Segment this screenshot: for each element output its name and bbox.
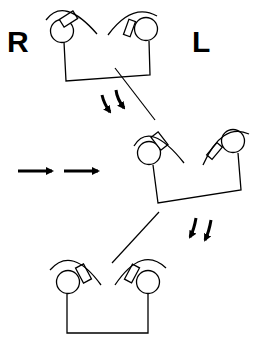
down-arrows-icon xyxy=(102,90,124,112)
left-eye-icon xyxy=(108,12,158,41)
rotation-diagram xyxy=(0,0,255,337)
down-arrows-icon xyxy=(190,218,211,240)
connector-line xyxy=(112,212,159,263)
bracket-base xyxy=(67,294,148,333)
right-eye-icon xyxy=(134,132,184,165)
left-eye-icon xyxy=(203,130,249,166)
right-eye-icon xyxy=(46,11,97,43)
bracket-base xyxy=(153,153,241,203)
left-eye-icon xyxy=(115,260,166,294)
right-eye-icon xyxy=(50,260,101,293)
top-figure xyxy=(46,11,158,81)
middle-figure xyxy=(134,130,249,204)
bracket-base xyxy=(64,41,150,81)
bottom-figure xyxy=(50,260,166,333)
